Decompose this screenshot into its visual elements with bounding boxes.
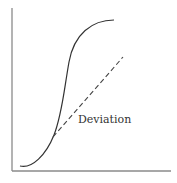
s-curve-diagram: Deviation xyxy=(0,0,177,183)
s-curve xyxy=(20,20,114,166)
deviation-label: Deviation xyxy=(78,113,131,126)
